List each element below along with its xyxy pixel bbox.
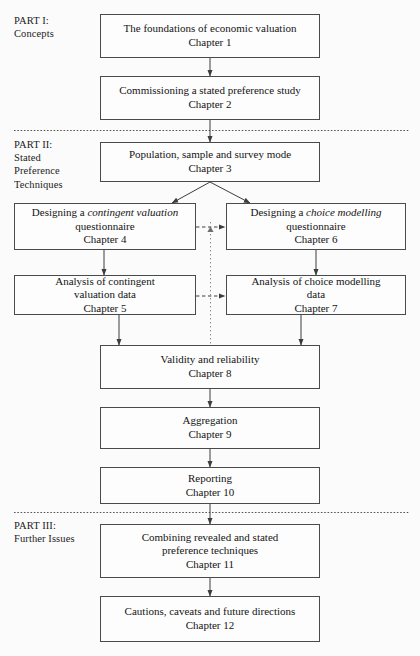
- node-chapter-1-title: The foundations of economic valuation: [124, 22, 297, 36]
- node-chapter-5-subtitle: valuation data: [74, 288, 136, 302]
- node-chapter-7-chapter: Chapter 7: [294, 302, 337, 316]
- node-chapter-11-title: Combining revealed and stated: [142, 531, 279, 545]
- node-chapter-7[interactable]: Analysis of choice modelling data Chapte…: [226, 275, 406, 315]
- node-chapter-12-title: Cautions, caveats and future directions: [125, 605, 296, 619]
- node-chapter-10[interactable]: Reporting Chapter 10: [100, 467, 320, 504]
- connector-ch3-ch6: [210, 182, 250, 203]
- node-chapter-6-subtitle: questionnaire: [286, 220, 345, 234]
- node-chapter-3-chapter: Chapter 3: [188, 162, 231, 176]
- node-chapter-11-chapter: Chapter 11: [186, 558, 234, 572]
- node-chapter-2-title: Commissioning a stated preference study: [119, 84, 300, 98]
- node-chapter-1[interactable]: The foundations of economic valuation Ch…: [100, 14, 320, 58]
- node-chapter-4-subtitle: questionnaire: [75, 220, 134, 234]
- part-label-3: PART III: Further Issues: [14, 519, 75, 545]
- node-chapter-6[interactable]: Designing a choice modelling questionnai…: [226, 203, 406, 250]
- node-chapter-11-subtitle: preference techniques: [162, 544, 258, 558]
- node-chapter-9-chapter: Chapter 9: [188, 428, 231, 442]
- node-chapter-6-title: Designing a choice modelling: [250, 206, 381, 220]
- connector-ch3-ch4: [172, 182, 210, 203]
- node-chapter-5[interactable]: Analysis of contingent valuation data Ch…: [14, 275, 196, 315]
- node-chapter-5-title: Analysis of contingent: [55, 275, 155, 289]
- node-chapter-5-chapter: Chapter 5: [83, 302, 126, 316]
- node-chapter-4[interactable]: Designing a contingent valuation questio…: [14, 203, 196, 250]
- spine-arrowhead-upper: [207, 227, 213, 233]
- node-chapter-8-chapter: Chapter 8: [188, 367, 231, 381]
- node-chapter-7-subtitle: data: [307, 288, 325, 302]
- node-chapter-8-title: Validity and reliability: [161, 353, 260, 367]
- node-chapter-1-chapter: Chapter 1: [188, 36, 231, 50]
- node-chapter-8[interactable]: Validity and reliability Chapter 8: [100, 345, 320, 389]
- node-chapter-2[interactable]: Commissioning a stated preference study …: [100, 76, 320, 120]
- node-chapter-10-chapter: Chapter 10: [186, 486, 235, 500]
- part-label-1: PART I: Concepts: [14, 14, 54, 40]
- node-chapter-4-chapter: Chapter 4: [83, 233, 126, 247]
- part-label-2: PART II: Stated Preference Techniques: [14, 138, 63, 191]
- node-chapter-9-title: Aggregation: [183, 414, 238, 428]
- node-chapter-3[interactable]: Population, sample and survey mode Chapt…: [100, 142, 320, 182]
- node-chapter-4-title: Designing a contingent valuation: [32, 206, 178, 220]
- node-chapter-7-title: Analysis of choice modelling: [251, 275, 380, 289]
- node-chapter-10-title: Reporting: [188, 472, 232, 486]
- node-chapter-12-chapter: Chapter 12: [186, 619, 235, 633]
- node-chapter-3-title: Population, sample and survey mode: [129, 148, 291, 162]
- node-chapter-11[interactable]: Combining revealed and stated preference…: [100, 524, 320, 578]
- flowchart-diagram: PART I: Concepts PART II: Stated Prefere…: [0, 0, 420, 656]
- node-chapter-9[interactable]: Aggregation Chapter 9: [100, 407, 320, 449]
- node-chapter-12[interactable]: Cautions, caveats and future directions …: [100, 596, 320, 642]
- node-chapter-2-chapter: Chapter 2: [188, 98, 231, 112]
- node-chapter-6-chapter: Chapter 6: [294, 233, 337, 247]
